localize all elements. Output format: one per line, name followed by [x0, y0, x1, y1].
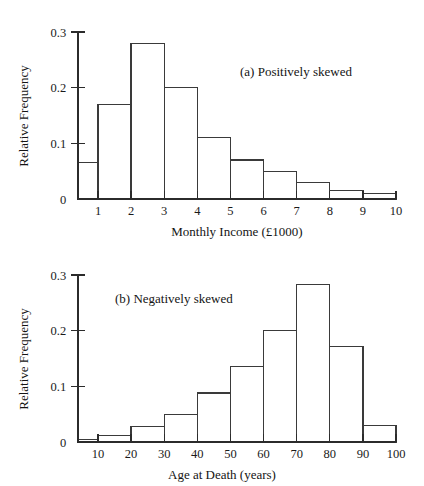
x-axis-title-a: Monthly Income (£1000) [171, 224, 302, 239]
x-axis-title-b: Age at Death (years) [168, 467, 276, 482]
x-tick-label: 5 [227, 204, 233, 218]
histogram-bar [230, 367, 263, 442]
x-tick-label: 7 [294, 204, 300, 218]
panel-annotation-b: (b) Negatively skewed [115, 291, 233, 306]
histogram-bar [363, 425, 396, 442]
panel-annotation-a: (a) Positively skewed [240, 64, 352, 79]
x-tick-label: 30 [158, 447, 171, 461]
histogram-bar [131, 426, 164, 442]
x-tick-label: 6 [260, 204, 266, 218]
x-tick-label: 40 [191, 447, 204, 461]
x-tick-label: 8 [327, 204, 333, 218]
histogram-bar [98, 435, 131, 442]
x-tick-label: 10 [92, 447, 105, 461]
y-tick-label: 0.2 [51, 324, 67, 338]
y-axis-title-b: Relative Frequency [16, 308, 31, 410]
x-tick-label: 90 [357, 447, 370, 461]
histogram-bar [131, 43, 164, 199]
x-tick-label: 70 [290, 447, 303, 461]
histogram-bar [197, 393, 230, 442]
x-tick-label: 60 [257, 447, 270, 461]
y-tick-label: 0 [60, 193, 66, 207]
chart-panel-positively-skewed: 00.10.20.3 12345678910 (a) Positively sk… [0, 0, 424, 243]
chart-svg-b: 00.10.20.3 102030405060708090100 (b) Neg… [0, 243, 424, 486]
histogram-bar [297, 182, 330, 199]
histogram-bar [297, 284, 330, 442]
histogram-bar [264, 171, 297, 199]
x-tick-label: 4 [194, 204, 201, 218]
histogram-bar [164, 88, 197, 199]
x-tick-label: 80 [324, 447, 337, 461]
y-tick-label: 0.3 [51, 269, 67, 283]
histogram-bar [78, 163, 98, 199]
histogram-bar [164, 414, 197, 442]
y-tick-label: 0.2 [51, 81, 67, 95]
chart-panel-negatively-skewed: 00.10.20.3 102030405060708090100 (b) Neg… [0, 243, 424, 486]
x-tick-label: 3 [161, 204, 167, 218]
histogram-bar [330, 346, 363, 442]
histogram-bar [98, 104, 131, 199]
x-tick-label: 50 [224, 447, 237, 461]
y-tick-label: 0.1 [51, 137, 67, 151]
histogram-bar [264, 331, 297, 442]
histogram-bar [197, 138, 230, 199]
figure-two-skewed-histograms: 00.10.20.3 12345678910 (a) Positively sk… [0, 0, 424, 486]
x-tick-label: 10 [390, 204, 403, 218]
x-tick-label: 100 [387, 447, 406, 461]
chart-svg-a: 00.10.20.3 12345678910 (a) Positively sk… [0, 0, 424, 243]
histogram-bar [330, 191, 363, 199]
x-tick-label: 2 [128, 204, 134, 218]
y-axis-title-a: Relative Frequency [16, 65, 31, 167]
x-tick-label: 20 [125, 447, 138, 461]
y-tick-label: 0 [60, 436, 66, 450]
y-tick-label: 0.3 [51, 26, 67, 40]
bar-group-b [78, 284, 396, 442]
histogram-bar [363, 193, 396, 199]
y-tick-group-b: 00.10.20.3 [51, 269, 86, 450]
y-tick-label: 0.1 [51, 380, 67, 394]
x-tick-label: 9 [360, 204, 366, 218]
x-tick-label: 1 [95, 204, 101, 218]
histogram-bar [230, 160, 263, 199]
